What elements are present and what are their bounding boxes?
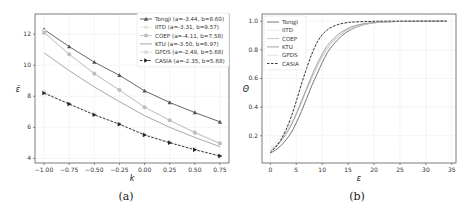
y-tick-label: 6 (27, 123, 31, 130)
x-axis-label: ε (357, 174, 362, 183)
legend-label: Tongji (281, 19, 299, 26)
circle-marker-icon (143, 105, 147, 109)
caption-a: (a) (118, 190, 133, 203)
legend-label: CASIA (a=-2.35, b=5.68) (155, 58, 225, 64)
x-tick-label: −0.75 (60, 166, 79, 173)
x-tick-label: −0.25 (110, 166, 129, 173)
x-tick-label: 0.75 (213, 166, 227, 173)
circle-marker-icon (168, 118, 172, 122)
caption-b: (b) (349, 190, 365, 203)
triangle-marker-icon (92, 60, 96, 64)
x-tick-label: 0 (268, 166, 272, 173)
x-tick-label: 0.25 (163, 166, 177, 173)
chart-b: 051015202530350.20.40.60.81.0εΘTongjiIIT… (243, 14, 456, 183)
y-tick-label: 1.0 (248, 17, 258, 24)
legend-label: CASIA (282, 61, 299, 67)
circle-marker-icon (144, 25, 148, 29)
legend-label: GPDS (282, 52, 298, 58)
circle-marker-icon (67, 52, 71, 56)
x-tick-label: 25 (396, 166, 404, 173)
y-axis-label: ε̄ (16, 85, 21, 94)
legend-label: Tongji (a=-3.44, b=8.60) (154, 16, 224, 23)
x-tick-label: 10 (318, 166, 326, 173)
legend-label: GPDS (a=-2.49, b=5.68) (155, 49, 224, 55)
circle-marker-icon (117, 88, 121, 92)
circle-marker-icon (92, 72, 96, 76)
x-tick-label: 0.00 (138, 166, 152, 173)
legend-label: COEP (282, 36, 298, 42)
triangle-marker-icon (67, 44, 71, 48)
circle-marker-icon (218, 142, 222, 146)
x-tick-label: 5 (294, 166, 298, 173)
y-tick-label: 8 (27, 92, 31, 99)
series-line (44, 92, 220, 156)
legend-label: IITD (a=-3.31, b=9.57) (155, 24, 219, 30)
y-tick-label: 10 (23, 61, 31, 68)
figure: −1.00−0.75−0.50−0.250.000.250.500.754681… (0, 0, 468, 213)
y-tick-label: 0.8 (248, 46, 258, 53)
legend-label: COEP (a=-4.11, b=7.58) (155, 33, 223, 39)
legend-label: KTU (a=-3.50, b=6.97) (155, 41, 219, 47)
figure-canvas: −1.00−0.75−0.50−0.250.000.250.500.754681… (0, 0, 468, 213)
legend-label: IITD (282, 27, 293, 33)
y-tick-label: 0.4 (248, 103, 258, 110)
x-tick-label: 30 (422, 166, 430, 173)
x-tick-label: 15 (344, 166, 352, 173)
x-tick-label: 0.50 (188, 166, 202, 173)
x-axis-label: k (130, 174, 135, 183)
x-tick-label: 20 (370, 166, 378, 173)
square-marker-icon (144, 50, 148, 54)
circle-marker-icon (42, 31, 46, 35)
x-tick-label: 35 (448, 166, 456, 173)
x-tick-label: −1.00 (35, 166, 54, 173)
y-tick-label: 4 (27, 154, 31, 161)
circle-marker-icon (193, 131, 197, 135)
y-axis-label: Θ (243, 85, 250, 94)
triangle-marker-icon (117, 73, 121, 77)
x-tick-label: −0.50 (85, 166, 104, 173)
y-tick-label: 0.2 (248, 132, 258, 139)
legend-label: KTU (282, 44, 293, 50)
y-tick-label: 0.6 (248, 74, 258, 81)
triangle-marker-icon (142, 89, 146, 93)
legend: TongjiIITDCOEPKTUGPDSCASIA (264, 16, 306, 70)
y-tick-label: 12 (23, 30, 31, 37)
circle-marker-icon (144, 34, 148, 38)
legend: Tongji (a=-3.44, b=8.60)IITD (a=-3.31, b… (137, 13, 229, 67)
chart-a: −1.00−0.75−0.50−0.250.000.250.500.754681… (16, 13, 229, 183)
